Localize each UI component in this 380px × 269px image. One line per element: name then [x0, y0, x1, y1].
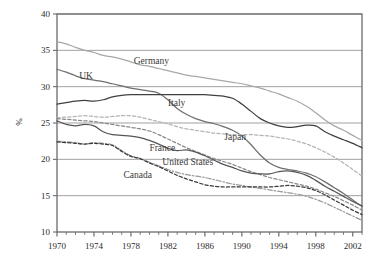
x-tick-label: 1982	[159, 241, 177, 251]
y-tick-label: 25	[41, 118, 51, 128]
y-axis-title-text: %	[14, 118, 24, 126]
series-label-italy: Italy	[168, 98, 186, 108]
x-tick-label: 1994	[270, 241, 289, 251]
series-label-united-states: United States	[162, 157, 213, 167]
series-label-uk: UK	[79, 71, 93, 81]
y-tick-label: 20	[41, 154, 51, 164]
x-tick-label: 1978	[122, 241, 141, 251]
x-tick-label: 1970	[48, 241, 67, 251]
x-tick-label: 2002	[344, 241, 362, 251]
x-axis-tick-labels: 197019741978198219861990199419982002	[48, 241, 362, 251]
series-label-canada: Canada	[124, 170, 153, 180]
line-chart: 40353025201510 1970197419781982198619901…	[0, 0, 380, 269]
chart-page: 40353025201510 1970197419781982198619901…	[0, 0, 380, 269]
x-tick-label: 1974	[85, 241, 104, 251]
y-tick-label: 15	[41, 191, 51, 201]
x-tick-label: 1990	[233, 241, 252, 251]
series-label-japan: Japan	[224, 132, 246, 142]
series-label-france: France	[149, 143, 175, 153]
x-tick-label: 1998	[307, 241, 326, 251]
y-tick-label: 35	[41, 45, 51, 55]
y-tick-label: 10	[41, 227, 51, 237]
series-label-germany: Germany	[134, 56, 170, 66]
x-tick-label: 1986	[196, 241, 215, 251]
y-tick-label: 30	[41, 82, 51, 92]
y-tick-label: 40	[41, 9, 51, 19]
y-axis-title: %	[14, 118, 24, 126]
